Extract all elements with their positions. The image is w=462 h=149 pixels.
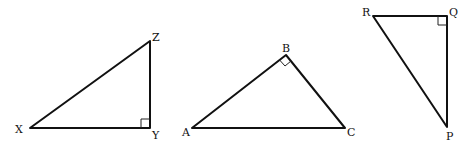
triangle-abc-outline: [192, 55, 345, 128]
vertex-label-r: R: [362, 6, 371, 19]
vertex-label-q: Q: [449, 6, 458, 19]
triangle-xyz: X Y Z: [15, 31, 160, 142]
right-angle-marker-y: [141, 119, 150, 128]
right-angle-marker-b: [280, 60, 291, 66]
vertex-label-p: P: [446, 130, 454, 143]
vertex-label-y: Y: [151, 129, 160, 142]
vertex-label-c: C: [347, 126, 355, 139]
triangle-pqr-outline: [373, 16, 447, 127]
vertex-label-b: B: [282, 42, 290, 55]
right-angle-marker-q: [438, 16, 447, 25]
vertex-label-z: Z: [152, 31, 160, 44]
vertex-label-a: A: [181, 126, 191, 139]
triangle-abc: A B C: [181, 42, 355, 139]
triangle-pqr: R Q P: [362, 6, 458, 143]
vertex-label-x: X: [15, 123, 23, 136]
triangle-xyz-outline: [30, 41, 150, 128]
triangles-diagram: X Y Z A B C R Q P: [0, 0, 462, 149]
